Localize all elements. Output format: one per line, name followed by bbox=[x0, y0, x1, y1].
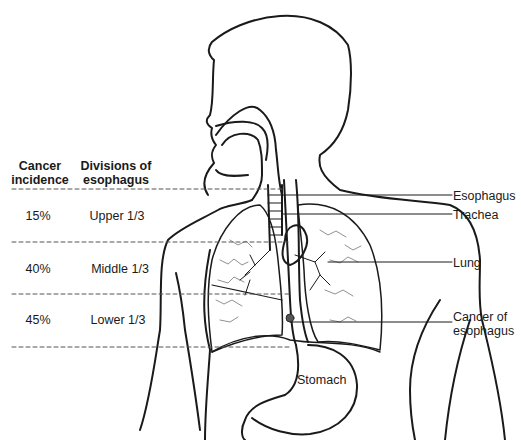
oral-cavity bbox=[216, 107, 282, 195]
header-divisions-line1: Divisions of bbox=[80, 159, 152, 173]
label-esophagus: Esophagus bbox=[453, 189, 516, 203]
bronchi bbox=[240, 250, 330, 295]
label-cancer-line1: Cancer of bbox=[453, 310, 514, 324]
label-lung: Lung bbox=[453, 256, 481, 270]
jaw bbox=[216, 170, 248, 176]
incidence-upper: 15% bbox=[18, 209, 58, 223]
tumor bbox=[286, 314, 294, 322]
head-outline bbox=[204, 16, 505, 440]
header-divisions-line2: esophagus bbox=[80, 173, 152, 187]
left-inner-arm bbox=[176, 273, 200, 430]
right-arm bbox=[445, 320, 470, 440]
tongue bbox=[222, 134, 262, 200]
header-divisions: Divisions of esophagus bbox=[80, 159, 152, 187]
incidence-middle: 40% bbox=[18, 262, 58, 276]
header-incidence-line1: Cancer bbox=[8, 159, 72, 173]
right-lung bbox=[298, 204, 382, 350]
anatomy-illustration bbox=[0, 0, 521, 440]
palate bbox=[216, 122, 268, 160]
header-cancer-incidence: Cancer incidence bbox=[8, 159, 72, 187]
label-trachea: Trachea bbox=[453, 208, 498, 222]
incidence-lower: 45% bbox=[18, 313, 58, 327]
division-upper: Upper 1/3 bbox=[84, 209, 150, 223]
body-right bbox=[410, 300, 440, 440]
label-cancer-line2: esophagus bbox=[453, 324, 514, 338]
label-stomach: Stomach bbox=[297, 373, 346, 387]
label-cancer-of-esophagus: Cancer of esophagus bbox=[453, 310, 514, 338]
division-lower: Lower 1/3 bbox=[84, 313, 152, 327]
division-middle: Middle 1/3 bbox=[84, 262, 156, 276]
header-incidence-line2: incidence bbox=[8, 173, 72, 187]
stomach bbox=[242, 345, 357, 440]
